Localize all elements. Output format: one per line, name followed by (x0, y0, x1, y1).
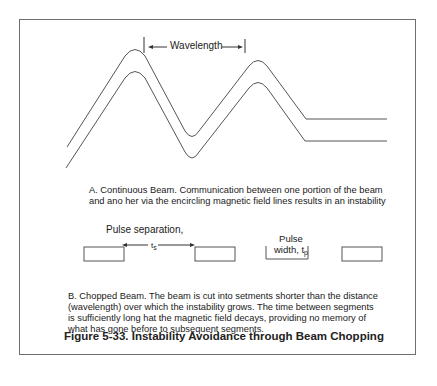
caption-continuous-beam: A. Continuous Beam. Communication betwee… (89, 185, 386, 207)
caption-chopped-beam: B. Chopped Beam. The beam is cut into se… (68, 291, 378, 335)
arrow-left-icon (148, 45, 153, 49)
pulse-separation-label: Pulse separation, (106, 224, 183, 235)
beam-lower-edge (66, 72, 387, 169)
arrow-right-icon (238, 45, 243, 49)
beam-segment-4 (342, 247, 382, 261)
caption-b-line-1: B. Chopped Beam. The beam is cut into se… (68, 291, 378, 302)
beam-segment-2 (195, 247, 235, 261)
pulse-width-label: Pulse width, tp (267, 233, 315, 258)
wavelength-label: Wavelength (170, 40, 222, 51)
caption-b-line-3: is sufficiently long hat the magnetic fi… (68, 313, 378, 324)
caption-a-line-1: A. Continuous Beam. Communication betwee… (89, 185, 386, 196)
caption-b-line-2: (wavelength) over which the instability … (68, 302, 378, 313)
pulse-separation-symbol: ts (151, 240, 157, 253)
beam-upper-edge (67, 50, 387, 148)
caption-a-line-2: and ano her via the encircling magnetic … (89, 196, 386, 207)
figure-title: Figure 5-33. Instability Avoidance throu… (64, 331, 384, 342)
beam-segment-1 (84, 247, 124, 261)
pulse-width-line-2: width, tp (267, 244, 315, 258)
arrow-left-icon (122, 243, 127, 247)
pulse-width-line-1: Pulse (267, 233, 315, 244)
arrow-right-icon (190, 243, 195, 247)
